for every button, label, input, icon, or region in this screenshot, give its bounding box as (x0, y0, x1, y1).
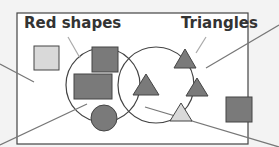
universal-set-frame (17, 13, 248, 144)
triangles-label: Triangles (181, 14, 258, 32)
red-square-outside (226, 97, 252, 122)
red-shapes-label: Red shapes (24, 14, 121, 32)
red-square (92, 47, 118, 72)
red-circle (91, 105, 117, 131)
red-rectangle (74, 74, 112, 99)
light-square (34, 46, 59, 70)
